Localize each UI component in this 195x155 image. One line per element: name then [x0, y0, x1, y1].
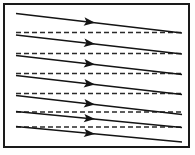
flow-arrow-line — [16, 127, 182, 143]
flow-arrow-line — [16, 56, 182, 75]
arrowheads-group — [84, 17, 95, 137]
flow-arrow-line — [16, 35, 182, 54]
flow-arrow-line — [16, 14, 182, 34]
flow-arrow-line — [16, 112, 182, 128]
dashed-reference-lines-group — [16, 33, 182, 128]
diagram-canvas — [0, 0, 195, 155]
flow-arrow-line — [16, 76, 182, 95]
figure-container: Slanted flow arrows over horizontal dash… — [0, 0, 195, 155]
